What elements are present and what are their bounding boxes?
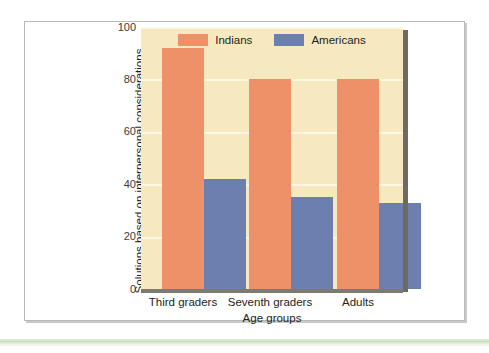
legend-swatch-indians-icon xyxy=(178,34,208,46)
x-axis-title: Age groups xyxy=(141,312,403,324)
plot-area xyxy=(141,27,408,291)
bar-americans-adults[interactable] xyxy=(379,203,421,289)
x-tick-label-third-graders: Third graders xyxy=(138,296,228,308)
legend-item-americans[interactable]: Americans xyxy=(274,34,365,46)
bar-indians-adults[interactable] xyxy=(337,79,379,289)
bar-indians-third-graders[interactable] xyxy=(162,48,204,289)
y-axis-ticks: 100 80 60 40 20 0 xyxy=(96,27,136,293)
y-tick-label-80: 80 xyxy=(96,73,136,85)
figure-root: Solutions based on interpersonal conside… xyxy=(0,0,489,353)
chart-legend: Indians Americans xyxy=(141,30,403,50)
legend-item-indians[interactable]: Indians xyxy=(178,34,252,46)
bar-americans-third-graders[interactable] xyxy=(204,179,246,289)
y-tick-label-20: 20 xyxy=(96,230,136,242)
plot-shadow-right xyxy=(403,30,408,292)
y-tick-label-40: 40 xyxy=(96,178,136,190)
y-tick-label-100: 100 xyxy=(96,21,136,33)
x-axis-baseline xyxy=(141,289,403,293)
y-axis-title-wrap: Solutions based on interpersonal conside… xyxy=(62,30,92,286)
plot-background xyxy=(141,27,403,289)
bar-indians-seventh-graders[interactable] xyxy=(249,79,291,289)
y-tick-label-0: 0 xyxy=(96,283,136,295)
legend-label-indians: Indians xyxy=(215,34,252,46)
y-tick-label-60: 60 xyxy=(96,125,136,137)
x-axis-ticks: Third graders Seventh graders Adults xyxy=(141,296,403,312)
x-tick-label-seventh-graders: Seventh graders xyxy=(225,296,315,308)
x-tick-label-adults: Adults xyxy=(313,296,403,308)
footer-accent-rule-secondary xyxy=(0,344,489,346)
legend-label-americans: Americans xyxy=(311,34,365,46)
bar-americans-seventh-graders[interactable] xyxy=(291,197,333,289)
legend-swatch-americans-icon xyxy=(274,34,304,46)
bars-layer xyxy=(141,27,403,289)
